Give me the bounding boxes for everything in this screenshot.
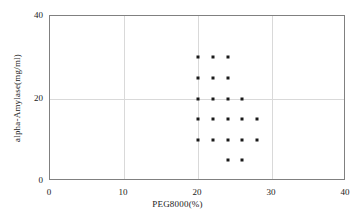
data-point	[241, 118, 244, 121]
gridline-vertical	[272, 16, 273, 179]
data-point	[211, 56, 214, 59]
x-axis-tick-label: 20	[182, 187, 212, 197]
data-point	[226, 56, 229, 59]
data-point	[197, 97, 200, 100]
data-point	[226, 118, 229, 121]
plot-area	[49, 15, 345, 180]
x-axis-tick-label: 10	[108, 187, 138, 197]
data-point	[197, 76, 200, 79]
x-axis-tick-label: 40	[330, 187, 355, 197]
data-point	[226, 159, 229, 162]
y-axis-tick-label: 20	[17, 93, 43, 103]
data-point	[211, 97, 214, 100]
data-point	[241, 97, 244, 100]
scatter-chart: PEG8000(%) alpha-Amylase(mg/ml) 01020304…	[0, 0, 355, 219]
data-point	[197, 118, 200, 121]
y-axis-tick-label: 40	[17, 10, 43, 20]
data-point	[211, 138, 214, 141]
data-point	[197, 56, 200, 59]
gridline-vertical	[124, 16, 125, 179]
x-axis-tick-label: 30	[256, 187, 286, 197]
data-point	[256, 118, 259, 121]
y-axis-tick-label: 0	[17, 175, 43, 185]
data-point	[197, 138, 200, 141]
x-axis-tick-label: 0	[34, 187, 64, 197]
data-point	[211, 118, 214, 121]
data-point	[226, 76, 229, 79]
data-point	[241, 138, 244, 141]
data-point	[226, 97, 229, 100]
data-point	[241, 159, 244, 162]
data-point	[256, 138, 259, 141]
data-point	[226, 138, 229, 141]
x-axis-title: PEG8000(%)	[0, 199, 355, 209]
data-point	[211, 76, 214, 79]
